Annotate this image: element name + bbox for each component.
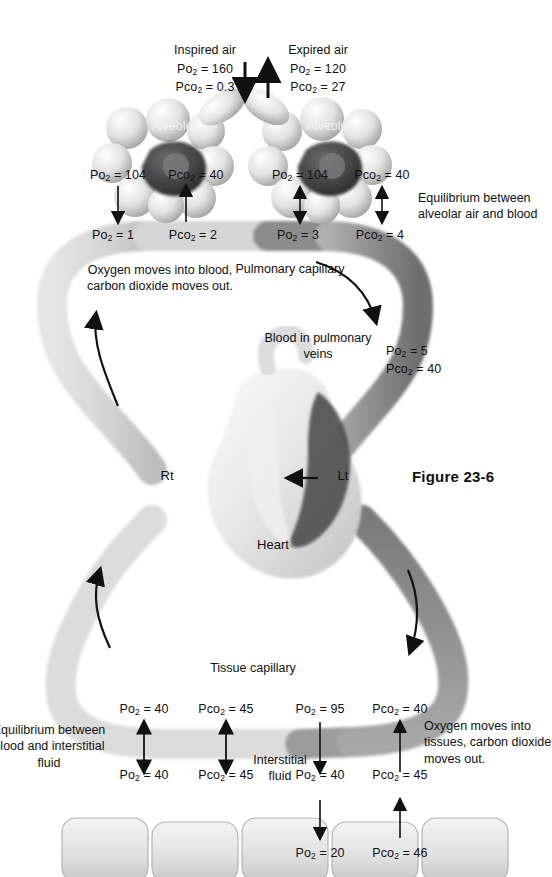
alveolus-label-right: Alveolus: [306, 119, 353, 134]
interstitial-right-po2: Po2 = 40: [296, 768, 345, 783]
alveolus-left-pco2: Pco2 = 40: [168, 168, 223, 183]
interstitial-left-pco2: Pco2 = 45: [198, 768, 253, 783]
alveolus-left-po2: Po2 = 104: [90, 168, 146, 183]
pulmonary-capillary-label: Pulmonary capillary: [235, 262, 344, 277]
cell-pco2: Pco2 = 46: [372, 846, 427, 861]
alveolus-cluster-left: [92, 81, 251, 223]
tissue-blood-in-po2: Po2 = 95: [296, 702, 345, 717]
interstitial-left-po2: Po2 = 40: [120, 768, 169, 783]
expired-air-po2: Po2 = 120: [290, 62, 346, 77]
pulmonary-veins-label: Blood in pulmonary veins: [256, 330, 381, 363]
note-oxygen-into-tissues: Oxygen moves into tissues, carbon dioxid…: [424, 718, 552, 767]
heart-label: Heart: [257, 537, 289, 552]
inspired-air-pco2: Pco2 = 0.3: [176, 80, 235, 95]
pulm-blood-right-po2: Po2 = 3: [277, 228, 319, 243]
heart-right-label: Rt: [161, 468, 174, 483]
inspired-air-po2: Po2 = 160: [177, 62, 233, 77]
tissue-blood-in-pco2: Pco2 = 40: [372, 702, 427, 717]
tissue-blood-out-pco2: Pco2 = 45: [198, 702, 253, 717]
tissue-capillary-label: Tissue capillary: [210, 661, 296, 676]
figure-caption: Figure 23-6: [412, 468, 494, 486]
pulmonary-veins-po2: Po2 = 5: [386, 344, 428, 359]
cell-po2: Po2 = 20: [296, 846, 345, 861]
alveolus-label-left: Alveolus: [151, 119, 198, 134]
pulm-blood-left-pco2: Pco2 = 2: [169, 228, 217, 243]
alveolus-right-pco2: Pco2 = 40: [354, 168, 409, 183]
tissue-cells: [62, 818, 508, 877]
expired-air-label: Expired air: [288, 43, 348, 58]
pulm-blood-left-po2: Po2 = 1: [92, 228, 134, 243]
note-equilibrium-alveolar: Equilibrium between alveolar air and blo…: [418, 190, 540, 223]
alveolus-cluster-right: [237, 81, 392, 224]
expired-air-pco2: Pco2 = 27: [290, 80, 345, 95]
note-equilibrium-interstitial: Equilibrium between blood and interstiti…: [0, 722, 108, 771]
tissue-blood-out-po2: Po2 = 40: [120, 702, 169, 717]
inspired-air-label: Inspired air: [174, 43, 236, 58]
pulm-blood-right-pco2: Pco2 = 4: [356, 228, 404, 243]
alveolus-right-po2: Po2 = 104: [272, 168, 328, 183]
note-oxygen-into-blood: Oxygen moves into blood, carbon dioxide …: [85, 262, 235, 295]
pulmonary-veins-pco2: Pco2 = 40: [386, 362, 441, 377]
interstitial-right-pco2: Pco2 = 45: [372, 768, 427, 783]
heart-left-label: Lt: [338, 468, 349, 483]
